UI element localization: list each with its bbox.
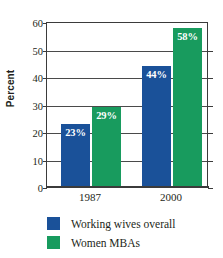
plot-right-edge <box>207 22 209 188</box>
bar-value-label: 29% <box>92 110 121 121</box>
x-axis-tick-label: 1987 <box>60 191 120 203</box>
bar: 29% <box>92 107 121 187</box>
legend-label: Women MBAs <box>71 237 140 249</box>
y-axis-tick-label: 30 <box>33 100 44 111</box>
legend-item: Women MBAs <box>47 233 175 252</box>
y-axis-tick-mark-right <box>208 51 213 52</box>
x-axis-line <box>46 186 209 188</box>
bar: 23% <box>61 124 90 187</box>
x-axis-tick-label: 2000 <box>141 191 201 203</box>
bar-value-label: 23% <box>61 127 90 138</box>
y-axis-tick-label: 50 <box>33 45 44 56</box>
bar-chart: Percent 010203040506023%29%44%58% 198720… <box>0 0 223 258</box>
bar-value-label: 44% <box>142 69 171 80</box>
y-axis-tick-label: 10 <box>33 155 44 166</box>
y-axis-tick-label: 20 <box>33 128 44 139</box>
y-axis-tick-mark <box>43 106 47 107</box>
y-axis-tick-mark <box>43 188 47 189</box>
y-axis-tick-mark-right <box>208 133 213 134</box>
y-axis-tick-mark <box>43 23 47 24</box>
legend-color-swatch <box>47 236 60 249</box>
y-axis-title: Percent <box>5 66 16 112</box>
bar: 44% <box>142 66 171 187</box>
y-axis-tick-mark-right <box>208 78 213 79</box>
bar: 58% <box>173 28 202 188</box>
bar-value-label: 58% <box>173 31 202 42</box>
y-axis-tick-label: 0 <box>38 183 43 194</box>
y-axis-tick-mark <box>43 51 47 52</box>
y-axis-tick-mark <box>43 161 47 162</box>
y-axis-tick-mark-right <box>208 106 213 107</box>
y-axis-tick-label: 40 <box>33 73 44 84</box>
y-axis-tick-mark <box>43 78 47 79</box>
plot-area: 010203040506023%29%44%58% <box>46 22 208 187</box>
y-axis-tick-mark-right <box>208 188 213 189</box>
y-axis-tick-mark-right <box>208 161 213 162</box>
legend-label: Working wives overall <box>71 218 175 230</box>
legend-color-swatch <box>47 217 60 230</box>
legend-item: Working wives overall <box>47 214 175 233</box>
y-axis-tick-mark <box>43 133 47 134</box>
legend: Working wives overallWomen MBAs <box>47 214 175 252</box>
y-axis-tick-label: 60 <box>33 18 44 29</box>
